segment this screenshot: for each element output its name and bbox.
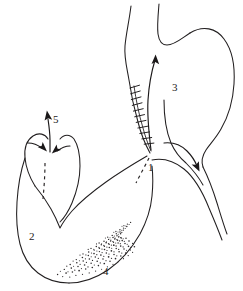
arrow-converge-right bbox=[52, 145, 70, 154]
label-5: 5 bbox=[53, 114, 59, 125]
esophagus-right-wall bbox=[158, 4, 190, 45]
duodenum-inner-wall bbox=[152, 159, 222, 240]
figure-root: Gastric bypass / gastrojejunal anastomos… bbox=[0, 0, 243, 291]
label-4: 4 bbox=[103, 266, 109, 277]
arrow-up-efferent-limb bbox=[45, 111, 53, 153]
stippled-contents-region bbox=[57, 222, 135, 278]
arrow-up-esophagus bbox=[148, 55, 159, 151]
stomach-fundus-curve bbox=[190, 28, 234, 167]
loop-bottom-wall bbox=[69, 166, 153, 283]
arrow-converge-left-head bbox=[38, 142, 47, 151]
anatomical-line-drawing: Gastric bypass / gastrojejunal anastomos… bbox=[0, 0, 243, 291]
esophagus-left-wall bbox=[125, 6, 150, 153]
arrow-up-esophagus-head bbox=[152, 55, 160, 65]
loop-apex-right-crest bbox=[60, 135, 80, 222]
label-1: 1 bbox=[148, 162, 154, 173]
label-2: 2 bbox=[29, 231, 35, 242]
arrow-converge-left bbox=[28, 142, 47, 151]
afferent-limb-upper-wall bbox=[35, 156, 147, 228]
duodenum-outer-wall bbox=[203, 167, 227, 234]
dashed-guide-line-loop bbox=[43, 163, 45, 199]
label-3: 3 bbox=[172, 82, 178, 93]
